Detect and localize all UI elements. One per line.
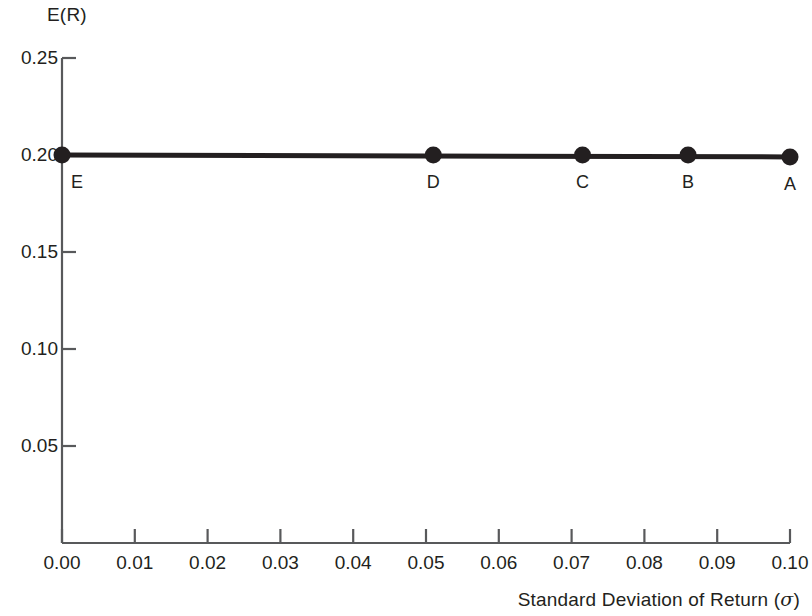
- x-tick-label: 0.01: [95, 552, 175, 574]
- x-tick-label: 0.00: [22, 552, 102, 574]
- plot-area: [0, 0, 812, 616]
- x-tick-label: 0.05: [386, 552, 466, 574]
- axes-group: [62, 58, 790, 543]
- x-tick-label: 0.02: [168, 552, 248, 574]
- x-tick-label: 0.06: [459, 552, 539, 574]
- data-point-label: E: [57, 172, 97, 193]
- data-point-label: A: [770, 174, 810, 195]
- y-tick-label: 0.10: [0, 338, 58, 360]
- data-point-marker[interactable]: [680, 147, 697, 164]
- y-tick-label: 0.25: [0, 47, 58, 69]
- chart-figure: E(R) Standard Deviation of Return (σ) 0.…: [0, 0, 812, 616]
- y-tick-label: 0.20: [0, 144, 58, 166]
- x-tick-label: 0.09: [677, 552, 757, 574]
- data-point-label: C: [563, 172, 603, 193]
- data-point-label: B: [668, 172, 708, 193]
- x-tick-label: 0.08: [604, 552, 684, 574]
- y-tick-label: 0.05: [0, 435, 58, 457]
- y-tick-label: 0.15: [0, 241, 58, 263]
- x-tick-marks: [62, 529, 790, 543]
- x-tick-label: 0.07: [532, 552, 612, 574]
- y-tick-marks: [62, 58, 76, 446]
- data-point-label: D: [413, 172, 453, 193]
- data-point-marker[interactable]: [425, 147, 442, 164]
- data-point-marker[interactable]: [782, 148, 799, 165]
- x-tick-label: 0.10: [750, 552, 812, 574]
- data-point-marker[interactable]: [574, 147, 591, 164]
- x-tick-label: 0.03: [240, 552, 320, 574]
- x-tick-label: 0.04: [313, 552, 393, 574]
